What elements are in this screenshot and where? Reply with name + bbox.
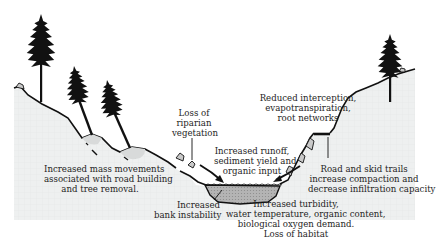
label-line: bank instability bbox=[154, 210, 220, 220]
diagram-canvas: Loss of riparian vegetation Reduced inte… bbox=[0, 0, 441, 251]
label-line: Increased bbox=[154, 200, 220, 210]
label-line: biological oxygen demand. bbox=[226, 219, 366, 229]
label-bank-instability: Increased bank instability bbox=[154, 200, 220, 220]
label-line: Increased mass movements bbox=[44, 164, 156, 174]
label-line: Increased turbidity, bbox=[226, 199, 366, 209]
label-mass-movements: Increased mass movements associated with… bbox=[44, 164, 156, 194]
label-line: evapotranspiration, bbox=[258, 103, 358, 113]
label-line: decrease infiltration capacity bbox=[308, 184, 420, 194]
label-line: Loss of bbox=[172, 108, 216, 118]
label-line: water temperature, organic content, bbox=[226, 209, 366, 219]
label-line: Loss of habitat bbox=[226, 229, 366, 239]
label-loss-riparian: Loss of riparian vegetation bbox=[172, 108, 216, 138]
pine-tree-icon bbox=[27, 14, 56, 102]
label-line: and tree removal. bbox=[44, 184, 156, 194]
label-turbidity: Increased turbidity, water temperature, … bbox=[226, 199, 366, 239]
label-line: riparian bbox=[172, 118, 216, 128]
label-line: organic input bbox=[214, 166, 290, 176]
label-line: Road and skid trails bbox=[308, 164, 420, 174]
label-line: root networks bbox=[258, 113, 358, 123]
label-line: increase compaction and bbox=[308, 174, 420, 184]
label-road-skid-trails: Road and skid trails increase compaction… bbox=[308, 164, 420, 194]
label-line: associated with road building bbox=[44, 174, 156, 184]
label-reduced-interception: Reduced interception, evapotranspiration… bbox=[258, 93, 358, 123]
label-line: Reduced interception, bbox=[258, 93, 358, 103]
label-increased-runoff: Increased runoff, sediment yield and org… bbox=[214, 146, 290, 176]
label-line: sediment yield and bbox=[214, 156, 290, 166]
label-line: Increased runoff, bbox=[214, 146, 290, 156]
label-line: vegetation bbox=[172, 128, 216, 138]
